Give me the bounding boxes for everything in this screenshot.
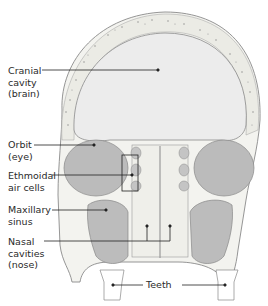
label-cranial-cavity: Cranial cavity (brain) [8, 65, 41, 100]
label-ethmoidal-air-cells: Ethmoidal air cells [8, 170, 56, 193]
orbit-left [64, 140, 128, 196]
orbit-right [194, 140, 254, 196]
label-maxillary-sinus: Maxillary sinus [8, 204, 51, 227]
label-nasal-cavities: Nasal cavities (nose) [8, 236, 44, 271]
label-orbit: Orbit (eye) [8, 139, 33, 162]
label-teeth: Teeth [146, 279, 172, 291]
